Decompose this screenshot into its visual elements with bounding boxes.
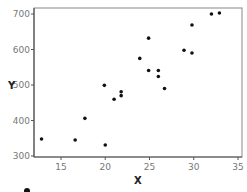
data-point xyxy=(210,12,214,16)
data-point xyxy=(190,23,194,27)
data-point xyxy=(73,138,77,142)
data-point xyxy=(147,69,151,73)
x-axis-title: X xyxy=(134,175,142,186)
data-point xyxy=(218,11,222,15)
legend-marker-fragment xyxy=(24,188,30,192)
data-point xyxy=(103,143,107,147)
data-point xyxy=(103,84,107,88)
x-tick-label: 15 xyxy=(55,162,66,172)
y-axis-title: Y xyxy=(7,80,16,91)
x-tick-label: 25 xyxy=(144,162,155,172)
data-point xyxy=(182,48,186,52)
data-point xyxy=(119,90,123,94)
x-tick-label: 35 xyxy=(232,162,243,172)
data-point xyxy=(163,87,167,91)
data-point xyxy=(157,69,161,73)
data-point xyxy=(147,36,151,40)
plot-frame xyxy=(34,8,242,157)
x-ticks: 1520253035 xyxy=(55,157,243,172)
scatter-chart: 300400500600700 1520253035 Y X xyxy=(0,0,247,192)
y-tick-label: 500 xyxy=(13,80,30,90)
y-tick-label: 700 xyxy=(13,9,30,19)
data-point xyxy=(119,94,123,98)
data-point xyxy=(157,75,161,79)
data-point xyxy=(83,117,87,121)
y-tick-label: 300 xyxy=(13,151,30,161)
x-tick-label: 30 xyxy=(188,162,200,172)
data-point xyxy=(190,51,194,55)
data-point xyxy=(112,97,116,101)
y-ticks: 300400500600700 xyxy=(13,9,34,161)
data-point xyxy=(138,57,142,61)
y-tick-label: 400 xyxy=(13,116,30,126)
y-tick-label: 600 xyxy=(13,45,30,55)
data-point xyxy=(40,137,44,141)
x-tick-label: 20 xyxy=(100,162,112,172)
